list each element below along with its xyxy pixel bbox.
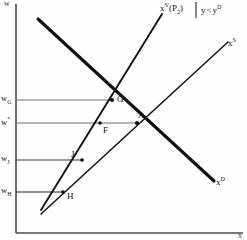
- point-label-F: F: [103, 126, 108, 135]
- point-label-G: G: [117, 95, 124, 104]
- demand-sup: D: [221, 176, 225, 182]
- tick-label-wstar: w*: [1, 117, 10, 126]
- diagram-canvas: w x wG w* wJ wH xS'(P2) y<yD xS xD G A F…: [0, 0, 247, 240]
- point-marker-J: [80, 158, 84, 162]
- supply-sup: S: [233, 37, 236, 43]
- point-marker-G: [110, 98, 114, 102]
- condition-label: y<yD: [201, 4, 222, 15]
- shifted-supply-paren: (P: [169, 3, 177, 13]
- condition-right-sup: D: [217, 4, 221, 10]
- x-axis-label: x: [238, 232, 242, 240]
- shifted-supply-close: ): [180, 3, 183, 13]
- tick-label-wH: wH: [1, 186, 11, 197]
- demand-curve-label: xD: [216, 176, 225, 187]
- point-marker-A: [135, 121, 139, 125]
- point-label-A: A: [138, 111, 145, 120]
- point-label-H: H: [67, 192, 74, 201]
- supply-curve-label: xS: [228, 37, 236, 48]
- tick-label-wJ: wJ: [1, 154, 9, 165]
- point-marker-F: [98, 121, 102, 125]
- tick-label-wG: wG: [1, 94, 11, 105]
- tick-wH-sub: H: [7, 191, 11, 197]
- point-label-J: J: [71, 150, 75, 159]
- supply-curve: [41, 42, 228, 214]
- tick-wstar-sub: *: [7, 116, 10, 122]
- condition-operator: <: [207, 5, 212, 15]
- shifted-supply-curve-label: xS'(P2): [160, 2, 183, 15]
- supply-demand-svg: [0, 0, 247, 240]
- tick-wG-sub: G: [7, 99, 11, 105]
- tick-wJ-sub: J: [7, 159, 9, 165]
- condition-left: y: [201, 5, 206, 15]
- y-axis-label: w: [4, 0, 10, 8]
- point-marker-H: [61, 190, 65, 194]
